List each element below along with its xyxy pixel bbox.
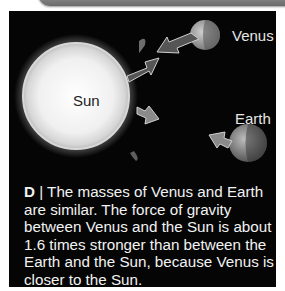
panel-letter: D xyxy=(24,183,35,200)
venus-planet-icon xyxy=(190,20,220,50)
sun-label: Sun xyxy=(73,92,100,109)
header-tab-decoration xyxy=(38,0,285,6)
venus-label: Venus xyxy=(232,27,274,44)
figure-panel: Sun Venus Earth D | The masses of Venus … xyxy=(9,11,276,287)
figure-caption: D | The masses of Venus and Earth are si… xyxy=(24,183,274,287)
caption-text: The masses of Venus and Earth are simila… xyxy=(24,183,274,287)
arrow-earth-to-sun-icon xyxy=(209,132,232,148)
earth-planet-icon xyxy=(229,124,267,162)
earth-label: Earth xyxy=(235,110,271,127)
arrow-sun-to-earth-icon xyxy=(137,106,159,124)
caption-separator: | xyxy=(39,183,43,200)
